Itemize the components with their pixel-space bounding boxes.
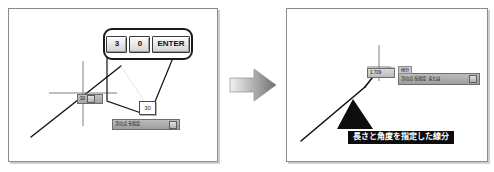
annotation-label: 長さと角度を指定した線分 (348, 131, 454, 144)
dynamic-input-value: 30 (144, 105, 151, 111)
length-input-tag[interactable]: 1.709 (367, 68, 395, 78)
dropdown-button-icon[interactable] (469, 75, 477, 83)
right-command-bar[interactable]: 次の点を指定 または (398, 73, 480, 85)
ghost-line (121, 66, 161, 127)
angle-input-value: 30 (80, 97, 85, 102)
right-arrow-icon (228, 66, 278, 104)
annotation-label-text: 長さと角度を指定した線分 (353, 132, 449, 141)
left-command-text: 次の点を指定 (115, 122, 167, 127)
dynamic-input-value-box[interactable]: 30 (139, 101, 156, 115)
key-enter[interactable]: ENTER (152, 36, 189, 53)
left-command-bar[interactable]: 次の点を指定 (112, 119, 180, 130)
key-3[interactable]: 3 (106, 36, 127, 53)
key-0[interactable]: 0 (129, 36, 150, 53)
figure-stage: 30 次の点を指定 30 3 0 ENTER (0, 0, 494, 172)
dropdown-button-icon[interactable] (169, 121, 177, 129)
length-input-value: 1.709 (370, 71, 381, 76)
dropdown-button-icon[interactable] (87, 95, 95, 103)
right-command-text: 次の点を指定 または (401, 77, 467, 82)
angle-input-tag[interactable]: 30 (77, 94, 103, 104)
right-command-caption-text: 線分 (401, 68, 409, 73)
keystroke-callout: 3 0 ENTER (103, 28, 193, 60)
right-command-caption: 線分 (398, 66, 412, 74)
annotation-pointer (337, 99, 373, 129)
